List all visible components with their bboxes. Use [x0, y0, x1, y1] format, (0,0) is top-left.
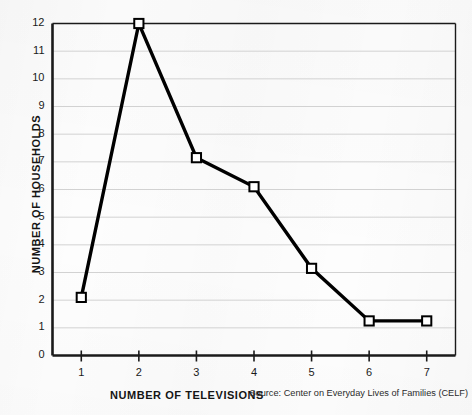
x-tick-label: 3	[184, 366, 208, 378]
data-point-marker[interactable]	[249, 182, 258, 191]
y-tick-label: 12	[23, 16, 45, 28]
line-chart-canvas	[0, 0, 472, 415]
data-point-marker[interactable]	[77, 293, 86, 302]
chart-screenshot: 0123456789101112 1234567 NUMBER OF HOUSE…	[0, 0, 472, 415]
y-tick-label: 2	[23, 293, 45, 305]
y-axis-title: NUMBER OF HOUSEHOLDS	[30, 94, 42, 294]
data-point-marker[interactable]	[192, 153, 201, 162]
data-line	[81, 24, 426, 321]
x-tick-label: 7	[415, 366, 439, 378]
x-tick-label: 4	[242, 366, 266, 378]
x-tick-label: 6	[357, 366, 381, 378]
x-tick-label: 5	[300, 366, 324, 378]
data-line-series	[81, 24, 426, 321]
data-point-marker[interactable]	[307, 264, 316, 273]
x-tick-label: 2	[127, 366, 151, 378]
y-tick-label: 11	[23, 44, 45, 56]
data-point-marker[interactable]	[365, 316, 374, 325]
data-point-marker[interactable]	[134, 19, 143, 28]
source-note: Source: Center on Everyday Lives of Fami…	[240, 388, 468, 398]
y-tick-label: 10	[23, 71, 45, 83]
x-tick-label: 1	[69, 366, 93, 378]
data-point-marker[interactable]	[422, 316, 431, 325]
y-tick-label: 1	[23, 320, 45, 332]
y-tick-label: 0	[23, 348, 45, 360]
